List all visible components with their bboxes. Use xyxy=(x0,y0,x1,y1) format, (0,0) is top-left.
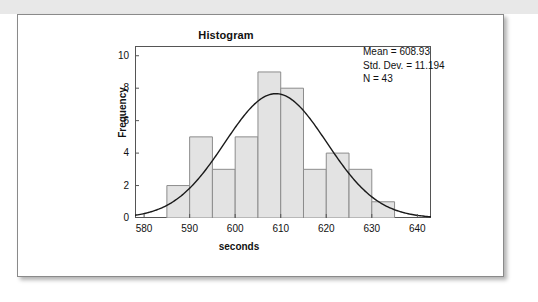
stat-std-dev: Std. Dev. = 11.194 xyxy=(363,59,445,73)
top-gray-strip xyxy=(0,0,538,14)
x-axis-label: seconds xyxy=(135,241,343,252)
x-tick-label: 640 xyxy=(404,223,430,234)
x-tick-label: 620 xyxy=(313,223,339,234)
y-tick-label: 4 xyxy=(109,147,129,158)
chart-title: Histogram xyxy=(110,29,342,41)
x-tick-label: 610 xyxy=(268,223,294,234)
statistics-annotation: Mean = 608.93 Std. Dev. = 11.194 N = 43 xyxy=(363,45,445,86)
histogram-bar xyxy=(167,186,190,218)
stat-mean: Mean = 608.93 xyxy=(363,45,445,59)
y-tick-label: 10 xyxy=(109,50,129,61)
figure-card: Histogram Frequency seconds 0246810 5805… xyxy=(17,14,504,277)
histogram-bar xyxy=(326,153,349,218)
y-tick-label: 6 xyxy=(109,115,129,126)
histogram-bar xyxy=(235,137,258,218)
histogram-bar xyxy=(303,169,326,218)
y-tick-label: 2 xyxy=(109,180,129,191)
x-tick-label: 630 xyxy=(359,223,385,234)
x-tick-label: 600 xyxy=(222,223,248,234)
x-tick-label: 580 xyxy=(131,223,157,234)
y-tick-label: 8 xyxy=(109,82,129,93)
histogram-bar xyxy=(212,169,235,218)
y-tick-marks xyxy=(135,56,139,218)
y-tick-label: 0 xyxy=(109,212,129,223)
x-tick-label: 590 xyxy=(177,223,203,234)
histogram-bar xyxy=(190,137,213,218)
stat-n: N = 43 xyxy=(363,72,445,86)
